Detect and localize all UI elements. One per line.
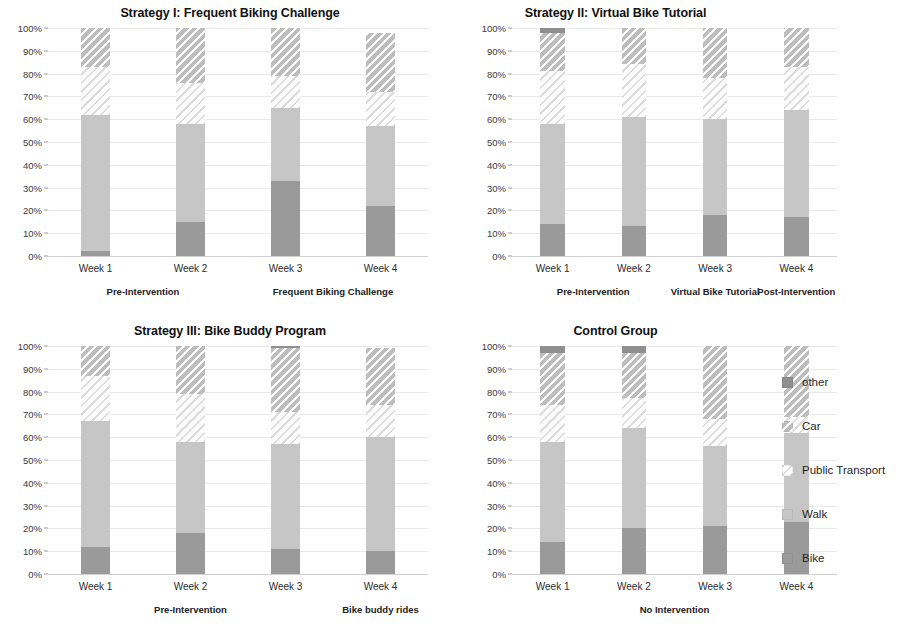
bar-segment-pt[interactable] [366, 405, 395, 437]
bar-segment-pt[interactable] [81, 67, 110, 115]
bar-column[interactable] [540, 28, 564, 256]
legend-item-walk[interactable]: Walk [782, 492, 918, 536]
stacked-bar[interactable] [703, 346, 727, 574]
bar-column[interactable] [622, 28, 646, 256]
bar-segment-other[interactable] [540, 346, 564, 353]
bar-segment-bike[interactable] [176, 533, 205, 574]
bar-segment-walk[interactable] [366, 437, 395, 551]
bar-segment-pt[interactable] [271, 412, 300, 444]
stacked-bar[interactable] [622, 346, 646, 574]
bar-column[interactable] [366, 346, 395, 574]
bar-column[interactable] [176, 346, 205, 574]
bar-segment-walk[interactable] [176, 124, 205, 222]
bar-segment-pt[interactable] [366, 92, 395, 126]
bar-segment-car[interactable] [622, 353, 646, 399]
bar-segment-car[interactable] [540, 353, 564, 405]
bar-column[interactable] [366, 28, 395, 256]
bar-segment-walk[interactable] [271, 444, 300, 549]
bar-segment-pt[interactable] [271, 76, 300, 108]
stacked-bar[interactable] [366, 28, 395, 256]
bar-column[interactable] [784, 28, 808, 256]
bar-segment-bike[interactable] [540, 542, 564, 574]
stacked-bar[interactable] [176, 28, 205, 256]
bar-segment-pt[interactable] [81, 376, 110, 422]
bar-segment-walk[interactable] [540, 124, 564, 224]
bar-segment-bike[interactable] [366, 551, 395, 574]
bar-column[interactable] [703, 346, 727, 574]
bar-segment-walk[interactable] [81, 115, 110, 252]
bar-segment-car[interactable] [703, 346, 727, 419]
bar-segment-bike[interactable] [366, 206, 395, 256]
bar-segment-pt[interactable] [176, 394, 205, 442]
bar-segment-car[interactable] [622, 28, 646, 64]
bar-segment-walk[interactable] [622, 117, 646, 226]
bar-segment-pt[interactable] [176, 83, 205, 124]
stacked-bar[interactable] [271, 28, 300, 256]
bar-column[interactable] [81, 28, 110, 256]
bar-segment-walk[interactable] [81, 421, 110, 546]
bar-segment-bike[interactable] [703, 526, 727, 574]
bar-column[interactable] [540, 346, 564, 574]
bar-segment-bike[interactable] [176, 222, 205, 256]
bar-segment-pt[interactable] [540, 405, 564, 441]
bar-segment-pt[interactable] [784, 67, 808, 110]
y-axis: 0%10%20%30%40%50%60%70%80%90%100% [2, 28, 48, 256]
bar-segment-walk[interactable] [622, 428, 646, 528]
bar-segment-car[interactable] [271, 28, 300, 76]
bar-segment-other[interactable] [622, 346, 646, 353]
bar-column[interactable] [271, 346, 300, 574]
stacked-bar[interactable] [271, 346, 300, 574]
bar-segment-pt[interactable] [622, 64, 646, 116]
bar-column[interactable] [176, 28, 205, 256]
legend-item-pt[interactable]: Public Transport [782, 448, 918, 492]
bar-segment-bike[interactable] [540, 224, 564, 256]
bar-segment-other[interactable] [271, 346, 300, 348]
stacked-bar[interactable] [784, 28, 808, 256]
bar-segment-car[interactable] [81, 28, 110, 67]
bar-segment-bike[interactable] [271, 549, 300, 574]
bar-segment-pt[interactable] [703, 78, 727, 119]
bar-segment-walk[interactable] [540, 442, 564, 542]
y-axis-tick-label: 90% [487, 363, 506, 374]
stacked-bar[interactable] [703, 28, 727, 256]
bar-segment-car[interactable] [176, 28, 205, 83]
stacked-bar[interactable] [176, 346, 205, 574]
bar-segment-walk[interactable] [366, 126, 395, 206]
bar-segment-car[interactable] [784, 28, 808, 67]
bar-segment-car[interactable] [703, 28, 727, 78]
bar-segment-walk[interactable] [176, 442, 205, 533]
bar-segment-pt[interactable] [622, 398, 646, 428]
bar-segment-bike[interactable] [622, 528, 646, 574]
bar-segment-bike[interactable] [81, 547, 110, 574]
bar-segment-bike[interactable] [622, 226, 646, 256]
bar-segment-bike[interactable] [271, 181, 300, 256]
stacked-bar[interactable] [540, 346, 564, 574]
bar-column[interactable] [271, 28, 300, 256]
bar-segment-pt[interactable] [703, 419, 727, 446]
bar-segment-walk[interactable] [784, 110, 808, 217]
stacked-bar[interactable] [540, 28, 564, 256]
bar-column[interactable] [81, 346, 110, 574]
bar-segment-other[interactable] [540, 28, 564, 33]
bar-column[interactable] [622, 346, 646, 574]
bar-segment-car[interactable] [540, 33, 564, 72]
legend-item-car[interactable]: Car [782, 404, 918, 448]
bar-column[interactable] [703, 28, 727, 256]
bar-segment-walk[interactable] [271, 108, 300, 181]
stacked-bar[interactable] [622, 28, 646, 256]
bar-segment-car[interactable] [271, 348, 300, 412]
stacked-bar[interactable] [81, 346, 110, 574]
bar-segment-walk[interactable] [703, 119, 727, 215]
legend-item-other[interactable]: other [782, 360, 918, 404]
legend-item-bike[interactable]: Bike [782, 536, 918, 580]
bar-segment-walk[interactable] [703, 446, 727, 526]
stacked-bar[interactable] [366, 346, 395, 574]
bar-segment-car[interactable] [366, 348, 395, 405]
bar-segment-car[interactable] [81, 346, 110, 376]
bar-segment-pt[interactable] [540, 71, 564, 123]
bar-segment-bike[interactable] [703, 215, 727, 256]
bar-segment-bike[interactable] [784, 217, 808, 256]
bar-segment-car[interactable] [366, 33, 395, 92]
bar-segment-car[interactable] [176, 346, 205, 394]
stacked-bar[interactable] [81, 28, 110, 256]
